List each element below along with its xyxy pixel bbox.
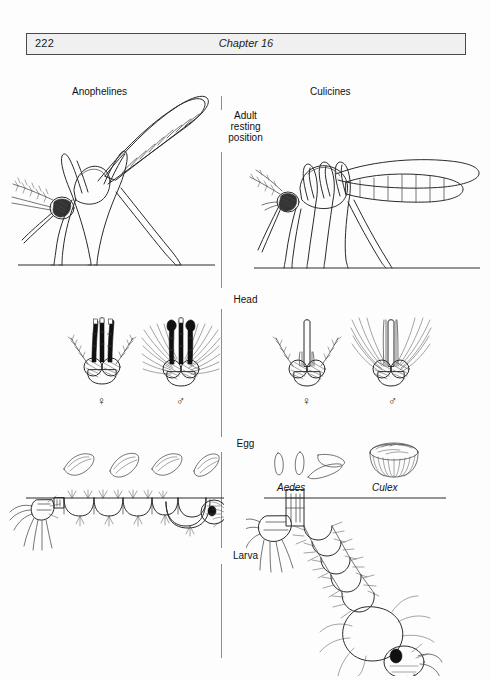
- anopheline-adult-illustration: [10, 80, 220, 280]
- culicine-adult-illustration: [248, 130, 486, 280]
- book-page: 222 Chapter 16 Anophelines Culicines Adu…: [0, 0, 491, 680]
- stage-label-adult-line1: Adult: [229, 110, 262, 121]
- culicine-female-head-illustration: [268, 314, 346, 390]
- anopheline-eggs-illustration: [60, 445, 220, 483]
- anopheline-female-sex-symbol: ♀: [97, 395, 106, 407]
- culex-egg-raft-illustration: [366, 441, 422, 483]
- column-heading-culicines: Culicines: [310, 86, 351, 97]
- mosquito-comparison-figure: Anophelines Culicines Adult resting posi…: [0, 62, 491, 670]
- chapter-title: Chapter 16: [27, 37, 465, 49]
- anopheline-egg: [194, 454, 219, 476]
- anopheline-egg: [110, 453, 139, 477]
- anopheline-egg: [152, 454, 182, 476]
- culicine-male-sex-symbol: ♂: [388, 395, 397, 407]
- anopheline-female-head-illustration: [62, 312, 142, 390]
- column-divider-segment: [221, 152, 222, 288]
- culicine-male-head-illustration: [348, 308, 436, 390]
- aedes-eggs-illustration: [272, 445, 350, 483]
- anopheline-larva-illustration: [2, 486, 224, 601]
- column-divider-segment: [221, 96, 222, 110]
- culicine-larva-illustration: [246, 486, 491, 676]
- running-header: 222 Chapter 16: [26, 33, 466, 55]
- stage-label-head: Head: [0, 294, 491, 305]
- anopheline-male-head-illustration: [138, 312, 224, 390]
- culicine-female-sex-symbol: ♀: [302, 395, 311, 407]
- stage-label-head-text: Head: [229, 294, 263, 305]
- stage-label-egg-text: Egg: [232, 438, 260, 449]
- anopheline-egg: [64, 454, 94, 476]
- anopheline-male-sex-symbol: ♂: [176, 395, 185, 407]
